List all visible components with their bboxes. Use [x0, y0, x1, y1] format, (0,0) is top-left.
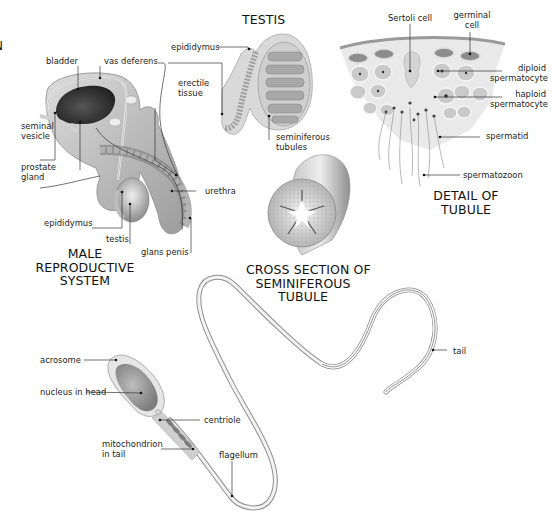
label-sertoli-cell: Sertoli cell	[388, 13, 432, 23]
label-erectile-tissue: erectile tissue	[178, 78, 209, 98]
label-urethra: urethra	[205, 186, 236, 196]
cutoff-letter: N	[0, 40, 3, 54]
label-nucleus-in-head: nucleus in head	[40, 387, 106, 397]
title-detail-of-tubule: DETAIL OF TUBULE	[426, 189, 506, 216]
testis-drawing	[222, 34, 313, 134]
label-diploid-spermatocyte: diploid spermatocyte	[490, 63, 546, 83]
title-cross-section: CROSS SECTION OF SEMINIFEROUS TUBULE	[246, 263, 360, 304]
label-mitochondrion-in-tail: mitochondrion in tail	[102, 439, 163, 459]
label-haploid-spermatocyte: haploid spermatocyte	[490, 89, 546, 109]
label-tail: tail	[453, 346, 466, 356]
label-seminiferous-tubules: seminiferous tubules	[276, 132, 330, 152]
label-centriole: centriole	[204, 415, 241, 425]
label-flagellum: flagellum	[219, 450, 258, 460]
label-germinal-cell: germinal cell	[452, 10, 492, 30]
label-spermatid: spermatid	[486, 131, 528, 141]
title-testis: TESTIS	[242, 13, 285, 27]
male-system-drawing	[40, 73, 187, 234]
label-epididymus-testis: epididymus	[171, 42, 220, 52]
cross-section-drawing	[268, 155, 350, 255]
label-acrosome: acrosome	[40, 355, 81, 365]
label-vas-deferens: vas deferens	[104, 56, 158, 66]
label-bladder: bladder	[46, 56, 78, 66]
label-glans-penis: glans penis	[141, 247, 189, 257]
tubule-detail-drawing	[340, 38, 505, 186]
label-spermatozoon: spermatozoon	[463, 170, 523, 180]
label-epididymus-male: epididymus	[44, 218, 93, 228]
label-seminal-vesicle: seminal vesicle	[21, 121, 54, 141]
sperm-drawing	[108, 277, 435, 508]
label-testis: testis	[106, 234, 129, 244]
title-male-reproductive-system: MALE REPRODUCTIVE SYSTEM	[30, 247, 140, 288]
label-prostate-gland: prostate gland	[21, 162, 56, 182]
